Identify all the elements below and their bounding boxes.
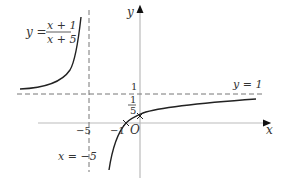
tick-label-y-fifth-numerator: 1 — [130, 94, 136, 105]
tick-label-x-minus1: −1 — [110, 125, 125, 136]
horizontal-asymptote-label: y = 1 — [232, 78, 262, 91]
function-graph: y = x + 1 x + 5 y x O y = 1 x = −5 −5 −1… — [0, 0, 288, 179]
tick-label-x-minus5: −5 — [76, 125, 91, 136]
function-label-denominator: x + 5 — [47, 33, 76, 46]
function-label-numerator: x + 1 — [47, 19, 76, 32]
tick-label-y-fifth-denominator: 5 — [130, 105, 136, 116]
x-axis-label: x — [266, 123, 273, 137]
function-label-lhs: y = — [25, 25, 47, 39]
tick-label-y-one: 1 — [131, 81, 137, 92]
vertical-asymptote-label: x = −5 — [58, 150, 97, 163]
origin-label: O — [130, 123, 140, 137]
y-axis-label: y — [126, 5, 134, 19]
